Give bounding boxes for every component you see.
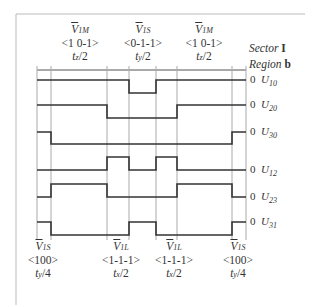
bottom-vector-label-1: V1S <100> ty/4	[18, 240, 68, 281]
waveform-u12	[37, 157, 246, 170]
bottom-vector-label-2: V1L <1-1-1> tx/2	[93, 240, 149, 281]
waveform-label-u12: 0 U12	[250, 163, 277, 178]
waveform-u20	[37, 105, 246, 118]
waveform-u23	[37, 184, 246, 197]
waveform-label-u30: 0 U30	[250, 125, 277, 140]
waveform-label-u23: 0 U23	[250, 190, 277, 205]
top-vector-label-2: V1S <0-1-1> ty/2	[115, 23, 171, 64]
waveform-label-u20: 0 U20	[250, 98, 277, 113]
segment-boundaries	[37, 66, 246, 240]
sector-label: Sector I	[249, 42, 286, 54]
bottom-vector-label-4: V1S <100> ty/4	[213, 240, 263, 281]
bottom-vector-label-3: V1L <1-1-1> tx/2	[146, 240, 202, 281]
waveform-u31	[37, 222, 246, 235]
waveform-label-u10: 0 U10	[250, 73, 277, 88]
top-vector-label-3: V1M <1 0-1> tz/2	[178, 23, 230, 64]
top-vector-label-1: V1M <1 0-1> tz/2	[54, 23, 106, 64]
waveform-label-u31: 0 U31	[250, 215, 277, 230]
waveform-u10	[37, 80, 246, 93]
waveform-u30	[37, 132, 246, 144]
region-label: Region b	[249, 58, 291, 70]
